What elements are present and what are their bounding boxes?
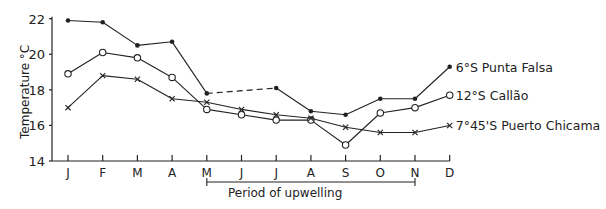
data-point: [65, 71, 71, 77]
data-point: [378, 96, 383, 101]
axes: 1416182022JFMAMJJASONDTemperature °C: [18, 12, 454, 180]
x-tick-label: S: [342, 166, 350, 180]
x-tick-label: J: [65, 166, 70, 180]
series-label: 6°S Punta Falsa: [456, 60, 553, 75]
data-point: [238, 112, 244, 118]
data-point: [66, 18, 71, 23]
data-point: [309, 109, 314, 114]
x-tick-label: O: [376, 166, 385, 180]
data-point: [100, 20, 105, 25]
data-point: [447, 64, 452, 69]
data-point: [134, 55, 140, 61]
y-axis-label: Temperature °C: [18, 45, 32, 140]
data-point: [170, 40, 175, 45]
series-label: 12°S Callão: [456, 88, 529, 103]
annotation-label: Period of upwelling: [228, 186, 342, 200]
data-point: [65, 105, 70, 110]
data-point: [100, 49, 106, 55]
data-point: [135, 43, 140, 48]
series-lines: [65, 18, 453, 148]
x-tick-label: A: [168, 166, 177, 180]
x-tick-label: J: [273, 166, 278, 180]
series-labels: 6°S Punta Falsa12°S Callão7°45'S Puerto …: [456, 60, 601, 134]
x-tick-label: M: [132, 166, 142, 180]
data-point: [204, 106, 210, 112]
x-tick-label: N: [411, 166, 420, 180]
x-tick-label: F: [99, 166, 106, 180]
data-point: [273, 117, 279, 123]
data-point: [413, 96, 418, 101]
data-point: [343, 112, 348, 117]
data-point: [274, 86, 279, 91]
data-point: [447, 92, 453, 98]
x-tick-label: M: [202, 166, 212, 180]
y-tick-label: 14: [28, 154, 45, 169]
series-label: 7°45'S Puerto Chicama: [456, 118, 601, 133]
data-point: [377, 110, 383, 116]
temperature-chart: 1416182022JFMAMJJASONDTemperature °C 6°S…: [0, 0, 606, 209]
data-point: [205, 91, 210, 96]
data-point: [169, 74, 175, 80]
x-tick-label: D: [445, 166, 454, 180]
upwelling-annotation: Period of upwelling: [207, 178, 415, 200]
data-point: [412, 104, 418, 110]
x-tick-label: A: [307, 166, 316, 180]
y-tick-label: 22: [28, 12, 45, 27]
x-tick-label: J: [239, 166, 244, 180]
data-point: [342, 142, 348, 148]
